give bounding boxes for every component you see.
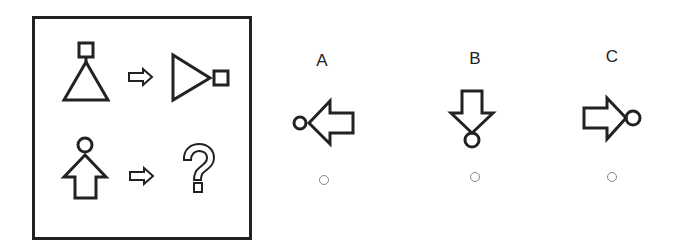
option-a-radio[interactable] — [319, 175, 329, 185]
option-b-radio[interactable] — [470, 172, 480, 182]
circle-on-up-arrow-icon — [64, 138, 106, 198]
option-a-figure-icon — [294, 101, 353, 144]
triangle-right-with-square-icon — [173, 55, 228, 100]
question-mark-icon — [184, 144, 214, 192]
option-c-label: C — [606, 48, 618, 65]
option-a-label: A — [316, 52, 327, 69]
option-c-radio[interactable] — [607, 172, 617, 182]
figures-canvas — [0, 0, 675, 242]
transition-arrow-icon — [130, 168, 153, 184]
figure-reasoning-puzzle: A B C — [0, 0, 675, 242]
option-b-label: B — [469, 50, 480, 67]
transition-arrow-icon — [129, 69, 152, 85]
option-c-figure-icon — [584, 98, 640, 139]
option-b-figure-icon — [451, 91, 493, 147]
square-on-triangle-icon — [64, 43, 108, 100]
